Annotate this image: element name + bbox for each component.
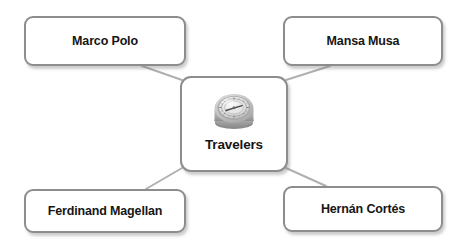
node-mansa-musa[interactable]: Mansa Musa	[283, 16, 443, 66]
connector-center-to-bottom-left	[146, 168, 182, 189]
node-label: Hernán Cortés	[321, 202, 405, 216]
node-label: Ferdinand Magellan	[48, 204, 163, 218]
connector-center-to-bottom-right	[286, 168, 326, 186]
compass-icon	[209, 87, 259, 133]
node-ferdinand-magellan[interactable]: Ferdinand Magellan	[24, 189, 186, 233]
connector-center-to-top-left	[142, 66, 182, 80]
concept-map-diagram: Marco Polo Mansa Musa Ferdinand Magellan…	[0, 0, 468, 249]
node-hernan-cortes[interactable]: Hernán Cortés	[283, 186, 443, 232]
node-label: Marco Polo	[72, 34, 138, 48]
connector-center-to-top-right	[286, 66, 330, 80]
node-label: Mansa Musa	[327, 34, 400, 48]
center-node-label: Travelers	[205, 137, 263, 153]
node-travelers-center[interactable]: Travelers	[180, 76, 288, 172]
node-marco-polo[interactable]: Marco Polo	[24, 16, 186, 66]
